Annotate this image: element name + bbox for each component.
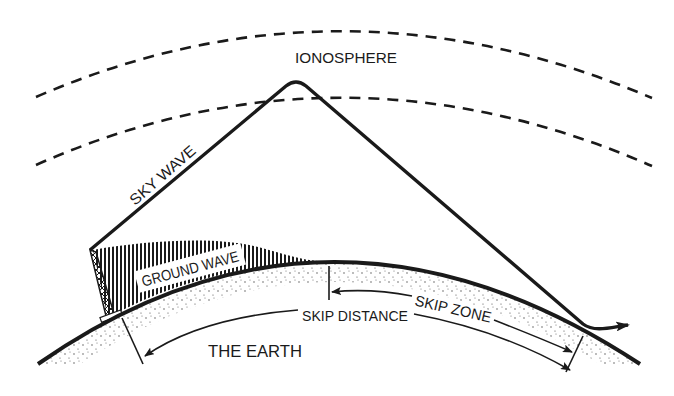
- sky-wave-label: SKY WAVE: [126, 142, 199, 209]
- propagation-diagram: IONOSPHERE GROUND WAVE SKY WAVE SKIP DIS…: [0, 0, 674, 396]
- ionosphere-inner-boundary: [36, 98, 652, 166]
- ionosphere-label: IONOSPHERE: [295, 49, 397, 66]
- the-earth-label: THE EARTH: [208, 343, 302, 360]
- skip-distance-label: SKIP DISTANCE: [302, 307, 408, 324]
- skip-zone-arrow-left: [332, 291, 412, 296]
